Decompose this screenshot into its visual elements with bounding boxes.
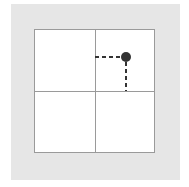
data-point [121,52,131,62]
point-overlay [0,0,189,187]
